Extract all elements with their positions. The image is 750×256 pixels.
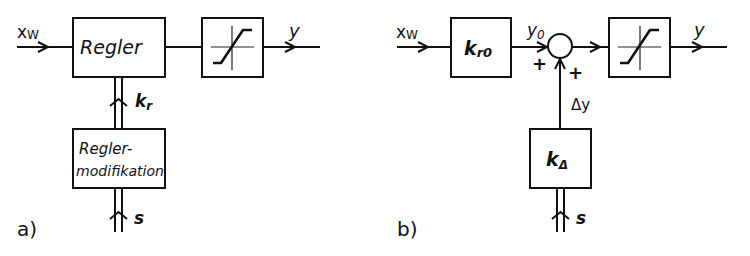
modifier-block [73, 129, 165, 188]
caption-a: a) [17, 217, 37, 241]
schedule-label: s [134, 208, 144, 228]
output-label: y [288, 20, 300, 41]
param-arrow-icon [110, 99, 127, 106]
modifier-label-line1: Regler- [79, 140, 132, 158]
param-label: kr [135, 91, 153, 113]
nominal-output-label: y0 [526, 20, 545, 42]
input-label: xW [17, 22, 39, 42]
output-label: y [693, 19, 705, 40]
schedule-arrow-icon [552, 212, 569, 219]
schedule-label: s [576, 208, 586, 228]
modifier-label-line2: modifikation [76, 163, 164, 179]
diagram-b: xW kr0 y0 + y + Δy kΔ [396, 18, 727, 241]
diagram-a: xW Regler y kr Regler- modifikation s [17, 18, 320, 241]
delta-label: Δy [571, 96, 590, 114]
sum-sign-left: + [532, 53, 547, 74]
input-label: xW [396, 22, 418, 42]
sum-sign-bottom: + [568, 62, 583, 83]
caption-b: b) [397, 217, 418, 241]
controller-label: Regler [80, 36, 143, 58]
summing-junction [548, 34, 572, 58]
schedule-arrow-icon [110, 212, 127, 219]
